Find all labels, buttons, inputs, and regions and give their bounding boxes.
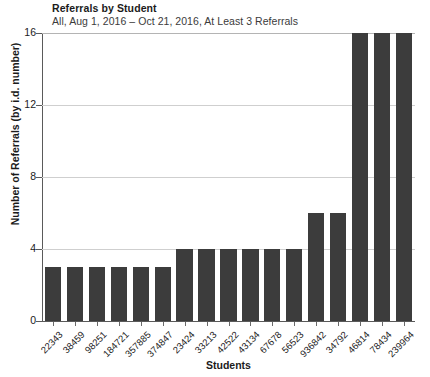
bar[interactable] — [330, 213, 346, 321]
bar[interactable] — [111, 267, 127, 321]
bar[interactable] — [374, 33, 390, 321]
bar[interactable] — [45, 267, 61, 321]
x-tick-mark — [185, 322, 186, 326]
bar[interactable] — [89, 267, 105, 321]
chart-subtitle: All, Aug 1, 2016 – Oct 21, 2016, At Leas… — [52, 15, 298, 27]
x-tick-mark — [294, 322, 295, 326]
x-axis-title: Students — [42, 359, 415, 371]
y-axis-title: Number of Referrals (by i.d. number) — [9, 14, 21, 254]
plot-area — [42, 33, 415, 321]
bar[interactable] — [155, 267, 171, 321]
y-tick-mark — [36, 249, 42, 250]
bar[interactable] — [286, 249, 302, 321]
bar[interactable] — [133, 267, 149, 321]
x-tick-mark — [141, 322, 142, 326]
y-tick-mark — [36, 321, 42, 322]
y-tick-mark — [36, 105, 42, 106]
x-tick-mark — [75, 322, 76, 326]
x-tick-mark — [338, 322, 339, 326]
y-tick-label: 0 — [6, 314, 36, 326]
x-tick-mark — [119, 322, 120, 326]
x-tick-mark — [163, 322, 164, 326]
x-tick-mark — [404, 322, 405, 326]
x-tick-mark — [272, 322, 273, 326]
bar[interactable] — [242, 249, 258, 321]
y-tick-mark — [36, 177, 42, 178]
x-tick-mark — [382, 322, 383, 326]
bar[interactable] — [396, 33, 412, 321]
x-tick-mark — [250, 322, 251, 326]
bar[interactable] — [198, 249, 214, 321]
x-tick-mark — [207, 322, 208, 326]
bar[interactable] — [264, 249, 280, 321]
x-tick-mark — [316, 322, 317, 326]
bar[interactable] — [176, 249, 192, 321]
bar[interactable] — [352, 33, 368, 321]
bar[interactable] — [220, 249, 236, 321]
x-tick-mark — [229, 322, 230, 326]
x-tick-mark — [360, 322, 361, 326]
bar[interactable] — [67, 267, 83, 321]
x-tick-mark — [97, 322, 98, 326]
chart-title: Referrals by Student — [52, 2, 157, 14]
x-tick-mark — [53, 322, 54, 326]
bar[interactable] — [308, 213, 324, 321]
bar-chart: Referrals by Student All, Aug 1, 2016 – … — [0, 0, 430, 377]
y-tick-mark — [36, 33, 42, 34]
